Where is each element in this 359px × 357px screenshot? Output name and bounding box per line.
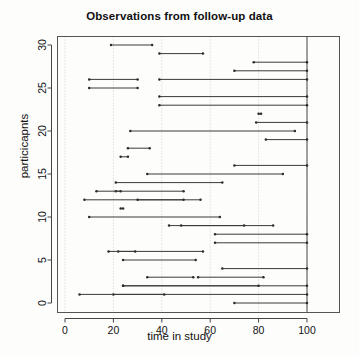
- followup-segment-16-start-point: [233, 164, 236, 167]
- followup-segment-30-stop-point: [151, 44, 154, 47]
- followup-segment-extra-12-start-point: [136, 199, 139, 202]
- followup-segment-16-stop-point: [306, 164, 309, 167]
- plot-canvas: 020406080100 051015202530: [0, 0, 359, 357]
- followup-segment-1-stop-point: [306, 293, 309, 296]
- y-axis-group: 051015202530: [36, 39, 52, 306]
- followup-segment-18-start-point: [127, 147, 130, 150]
- followup-segment-12-stop-point: [199, 199, 202, 202]
- followup-segment-extra-3-stop-point: [192, 276, 195, 279]
- followup-segment-27-stop-point: [306, 70, 309, 73]
- followup-segment-7-start-point: [214, 242, 217, 245]
- followup-segment-19-start-point: [265, 138, 268, 141]
- followup-segment-extra-3-start-point: [146, 276, 149, 279]
- segments-group: [78, 44, 308, 305]
- y-tick-label-5: 5: [36, 257, 48, 263]
- followup-segment-17-stop-point: [127, 156, 130, 159]
- followup-segment-26-start-point: [158, 78, 161, 81]
- followup-segment-extra-2-stop-point: [257, 285, 260, 288]
- followup-segment-extra-26-start-point: [88, 78, 91, 81]
- followup-segment-14-stop-point: [221, 181, 224, 184]
- followup-segment-4-stop-point: [306, 267, 309, 270]
- followup-segment-extra-2-start-point: [122, 285, 125, 288]
- followup-segment-12-start-point: [83, 199, 86, 202]
- y-tick-label-0: 0: [36, 300, 48, 306]
- followup-segment-9-stop-point: [272, 224, 275, 227]
- followup-segment-25-start-point: [88, 87, 91, 90]
- x-axis-label: time in study: [0, 330, 359, 342]
- followup-segment-26-stop-point: [306, 78, 309, 81]
- followup-segment-25-stop-point: [136, 87, 139, 90]
- followup-segment-20-stop-point: [294, 130, 297, 133]
- followup-segment-29-stop-point: [202, 52, 205, 55]
- followup-segment-5-stop-point: [194, 259, 197, 262]
- y-tick-label-30: 30: [36, 39, 48, 51]
- followup-segment-3-stop-point: [262, 276, 265, 279]
- followup-segment-24-stop-point: [306, 95, 309, 98]
- followup-segment-29-start-point: [158, 52, 161, 55]
- y-tick-label-15: 15: [36, 168, 48, 180]
- followup-segment-3-start-point: [197, 276, 200, 279]
- followup-segment-extra-6-stop-point: [134, 250, 137, 253]
- followup-segment-4-start-point: [221, 267, 224, 270]
- followup-segment-20-start-point: [129, 130, 132, 133]
- followup-segment-21-start-point: [255, 121, 258, 124]
- followup-segment-extra-13-start-point: [95, 190, 98, 193]
- followup-segment-9-start-point: [168, 224, 171, 227]
- y-axis-label: particicapnts: [18, 76, 30, 216]
- followup-segment-extra-6-start-point: [107, 250, 110, 253]
- followup-segment-8-stop-point: [306, 233, 309, 236]
- followup-segment-15-stop-point: [282, 173, 285, 176]
- followup-segment-18-stop-point: [148, 147, 151, 150]
- followup-segment-27-start-point: [233, 70, 236, 73]
- followup-segment-0-start-point: [233, 302, 236, 305]
- followup-segment-extra-9-start-point: [180, 224, 183, 227]
- followup-segment-19-stop-point: [306, 138, 309, 141]
- followup-segment-extra-26-stop-point: [136, 78, 139, 81]
- y-tick-label-20: 20: [36, 125, 48, 137]
- followup-segment-24-start-point: [158, 95, 161, 98]
- followup-segment-14-start-point: [115, 181, 118, 184]
- followup-segment-2-stop-point: [306, 285, 309, 288]
- followup-segment-7-stop-point: [306, 242, 309, 245]
- followup-segment-extra-9-stop-point: [243, 224, 246, 227]
- followup-segment-extra-12-stop-point: [182, 199, 185, 202]
- followup-segment-28-stop-point: [306, 61, 309, 64]
- followup-segment-8-start-point: [214, 233, 217, 236]
- followup-segment-extra-1-stop-point: [163, 293, 166, 296]
- followup-segment-11-start-point: [119, 207, 122, 210]
- followup-segment-23-stop-point: [306, 104, 309, 107]
- followup-segment-17-start-point: [119, 156, 122, 159]
- followup-segment-22-stop-point: [260, 113, 263, 116]
- followup-segment-15-start-point: [146, 173, 149, 176]
- chart-figure: Observations from follow-up data 0204060…: [0, 0, 359, 357]
- followup-segment-6-stop-point: [202, 250, 205, 253]
- followup-segment-10-start-point: [88, 216, 91, 219]
- followup-segment-5-start-point: [122, 259, 125, 262]
- followup-segment-21-stop-point: [306, 121, 309, 124]
- followup-segment-10-stop-point: [219, 216, 222, 219]
- y-tick-label-25: 25: [36, 82, 48, 94]
- followup-segment-extra-1-start-point: [78, 293, 81, 296]
- followup-segment-28-start-point: [253, 61, 256, 64]
- followup-segment-23-start-point: [158, 104, 161, 107]
- followup-segment-11-stop-point: [122, 207, 125, 210]
- y-tick-label-10: 10: [36, 211, 48, 223]
- followup-segment-extra-13-stop-point: [182, 190, 185, 193]
- followup-segment-0-stop-point: [306, 302, 309, 305]
- followup-segment-30-start-point: [110, 44, 113, 47]
- followup-segment-22-start-point: [257, 113, 260, 116]
